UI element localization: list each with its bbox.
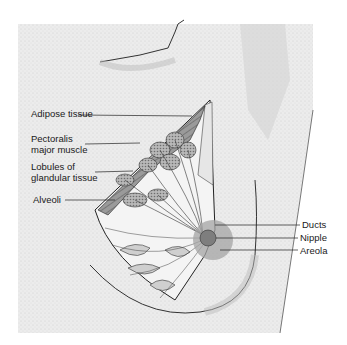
label-nipple: Nipple [300, 232, 327, 243]
label-adipose-tissue: Adipose tissue [31, 108, 93, 119]
label-lobules-line1: Lobules of [31, 161, 75, 172]
label-alveoli: Alveoli [33, 194, 61, 205]
label-areola: Areola [300, 245, 327, 256]
label-ducts: Ducts [302, 219, 326, 230]
breast-anatomy-diagram: Adipose tissue Pectoralis major muscle L… [0, 0, 347, 345]
label-lobules-line2: glandular tissue [31, 172, 98, 183]
label-pectoralis-line2: major muscle [31, 144, 88, 155]
label-pectoralis-line1: Pectoralis [31, 133, 73, 144]
nipple [200, 230, 216, 246]
